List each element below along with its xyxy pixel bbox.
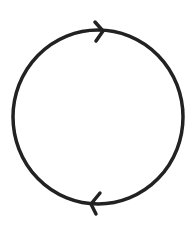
cycle-circle — [13, 30, 183, 204]
cycle-diagram-svg — [0, 0, 195, 232]
cycle-diagram — [0, 0, 195, 232]
